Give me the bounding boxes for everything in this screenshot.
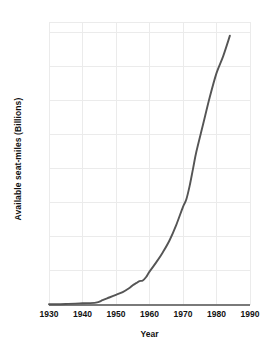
chart-figure: Available seat-miles (Billions) Year 100… [0,0,269,354]
data-line [49,36,230,305]
data-series-layer [49,36,230,305]
plot-area [0,0,269,354]
